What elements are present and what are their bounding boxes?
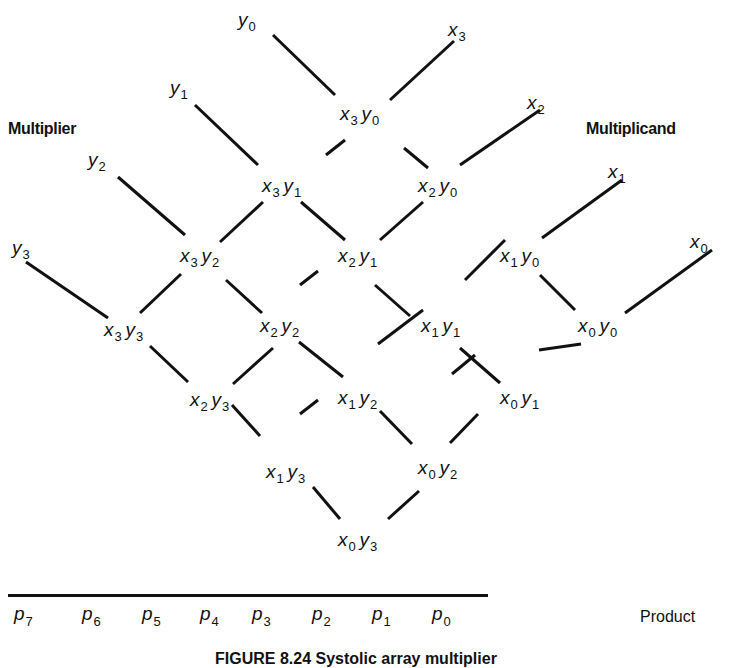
cell-x0y0: x0 y0	[578, 316, 617, 339]
connection-line	[625, 250, 712, 313]
cell-x1y3: x1 y3	[266, 462, 305, 485]
connection-line	[226, 280, 262, 313]
connection-line	[375, 285, 410, 316]
connection-line	[118, 177, 185, 235]
connection-line	[542, 180, 622, 238]
multiplier-input-y1: y1	[170, 78, 188, 101]
cell-x3y2: x3 y2	[180, 246, 219, 269]
cell-x1y0: x1 y0	[500, 246, 539, 269]
multiplicand-input-x0: x0	[690, 232, 708, 255]
cell-x2y0: x2 y0	[418, 176, 457, 199]
cell-x0y3: x0 y3	[338, 530, 377, 553]
connection-line	[299, 342, 343, 377]
connection-line	[26, 262, 108, 318]
cell-x0y2: x0 y2	[418, 458, 457, 481]
product-rule-line	[8, 594, 488, 597]
multiplicand-label: Multiplicand	[586, 120, 676, 138]
multiplier-input-y3: y3	[12, 238, 30, 261]
connection-line	[390, 41, 454, 100]
connection-line	[540, 275, 575, 310]
connection-line	[380, 411, 412, 444]
product-bit-p1: p1	[372, 603, 391, 629]
multiplicand-input-x3: x3	[448, 20, 466, 43]
connection-line	[404, 148, 428, 168]
product-bit-p4: p4	[200, 603, 219, 629]
connection-line	[220, 202, 263, 242]
connection-line	[465, 240, 505, 280]
cell-x3y1: x3 y1	[262, 176, 301, 199]
connection-line	[380, 202, 423, 240]
cell-x1y1: x1 y1	[421, 316, 460, 339]
connection-line	[300, 271, 318, 285]
connection-line	[378, 310, 423, 344]
multiplier-label: Multiplier	[8, 120, 76, 138]
product-bit-p2: p2	[312, 603, 331, 629]
cell-x2y3: x2 y3	[190, 390, 229, 413]
product-bit-p0: p0	[432, 603, 451, 629]
connection-line	[300, 400, 318, 414]
cell-x3y3: x3 y3	[104, 320, 143, 343]
connection-line	[460, 110, 540, 165]
cell-x2y2: x2 y2	[260, 316, 299, 339]
product-bit-p5: p5	[142, 603, 161, 629]
connection-line	[326, 140, 345, 155]
connection-line	[313, 487, 340, 519]
multiplier-input-y2: y2	[88, 150, 106, 173]
connection-line	[273, 35, 335, 95]
multiplicand-input-x1: x1	[608, 162, 626, 185]
product-bit-p6: p6	[82, 603, 101, 629]
connection-line	[460, 348, 500, 383]
connection-line	[301, 202, 345, 240]
multiplier-input-y0: y0	[238, 10, 256, 33]
cell-x0y1: x0 y1	[500, 388, 539, 411]
connection-line	[233, 348, 273, 384]
connection-line	[388, 491, 419, 519]
connection-line	[452, 355, 475, 374]
connection-line	[195, 105, 258, 165]
figure-caption: FIGURE 8.24 Systolic array multiplier	[215, 650, 497, 668]
connection-line	[140, 274, 181, 313]
connection-line	[450, 414, 478, 443]
product-bit-p7: p7	[14, 603, 33, 629]
product-label: Product	[640, 608, 695, 626]
cell-x2y1: x2 y1	[338, 246, 377, 269]
cell-x3y0: x3 y0	[340, 104, 379, 127]
multiplicand-input-x2: x2	[527, 93, 545, 116]
connection-line	[539, 344, 581, 350]
cell-x1y2: x1 y2	[338, 388, 377, 411]
connection-line	[150, 346, 188, 382]
connection-line	[232, 405, 260, 436]
product-bit-p3: p3	[252, 603, 271, 629]
